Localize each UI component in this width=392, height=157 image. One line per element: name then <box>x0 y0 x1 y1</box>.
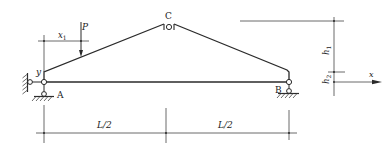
top-chord-right <box>174 24 289 80</box>
node-b-label: B <box>275 85 282 95</box>
x-axis-arrow <box>334 80 382 84</box>
hinge-c <box>164 24 174 30</box>
h1-label: h1 <box>321 46 332 55</box>
x-axis-label: x <box>369 70 374 79</box>
x1-label: x1 <box>58 30 67 41</box>
load-p-label: P <box>81 22 89 32</box>
truss-diagram: C A y B P <box>0 0 392 157</box>
h2-label: h2 <box>321 75 332 84</box>
support-a <box>23 73 55 101</box>
node-a-label: A <box>56 90 64 100</box>
node-c-label: C <box>165 11 172 21</box>
span-left-label: L/2 <box>96 120 112 130</box>
span-right-label: L/2 <box>217 120 233 130</box>
y-axis-label: y <box>35 67 42 77</box>
span-dimension <box>36 105 297 143</box>
